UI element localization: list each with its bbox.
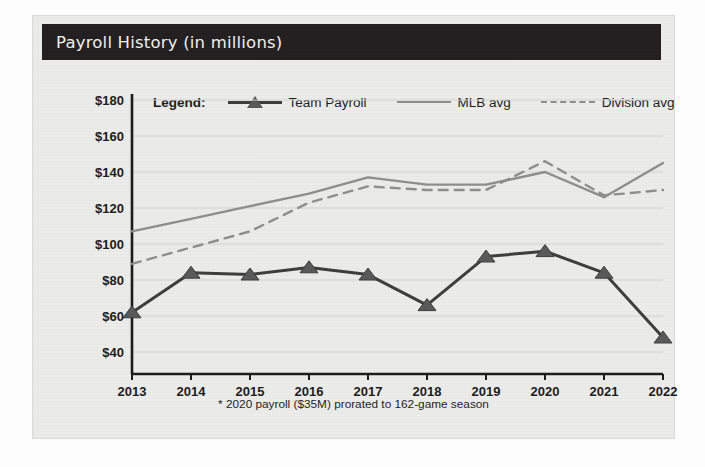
chart-plot-area: $180$160$140$120$100$80$60$40 2013201420… xyxy=(33,16,674,438)
y-axis-tick-label: $180 xyxy=(70,93,124,108)
payroll-history-chart-card: Payroll History (in millions) Legend: Te… xyxy=(33,16,674,438)
chart-canvas xyxy=(33,16,674,438)
y-axis-tick-label: $60 xyxy=(70,309,124,324)
y-axis-tick-label: $100 xyxy=(70,237,124,252)
y-axis-tick-label: $140 xyxy=(70,165,124,180)
y-axis-tick-label: $80 xyxy=(70,273,124,288)
series-line-team-payroll xyxy=(132,251,663,337)
y-axis-tick-label: $160 xyxy=(70,129,124,144)
data-point-marker xyxy=(595,266,613,278)
y-axis-tick-label: $40 xyxy=(70,345,124,360)
chart-footnote: * 2020 payroll ($35M) prorated to 162-ga… xyxy=(33,397,674,411)
series-line-mlb-avg xyxy=(132,163,663,231)
scan-surface: Payroll History (in millions) Legend: Te… xyxy=(0,0,705,467)
series-line-division-avg xyxy=(132,161,663,264)
y-axis-tick-label: $120 xyxy=(70,201,124,216)
